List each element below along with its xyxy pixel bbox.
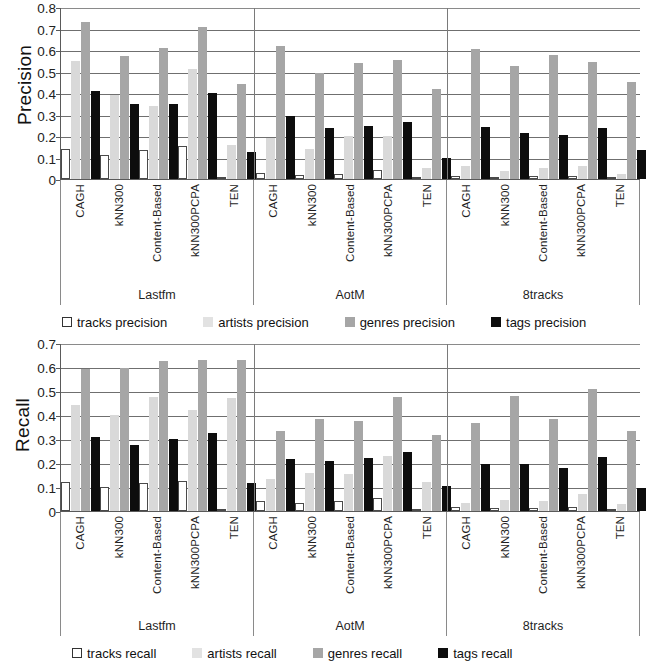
bar-tracks — [568, 176, 577, 179]
x-tick-label: kNN300 — [113, 184, 125, 226]
x-group-label: Lastfm — [61, 288, 253, 305]
precision-legend: tracks precisionartists precisiongenres … — [62, 312, 638, 332]
bar-tags — [559, 468, 568, 511]
group-separator — [447, 344, 448, 511]
x-tick-label: kNN300 — [306, 184, 318, 226]
x-group-lastfm: CAGHkNN300Content-BasedkNN300PCPATENLast… — [61, 180, 253, 305]
x-tick: kNN300 — [485, 516, 523, 558]
bar-genres — [315, 73, 324, 179]
x-tick-labels: CAGHkNN300Content-BasedkNN300PCPATEN — [254, 180, 446, 288]
legend-label: artists precision — [218, 315, 308, 330]
bar-cluster — [178, 344, 217, 511]
bar-group-8tracks — [451, 344, 646, 511]
bar-genres — [276, 46, 285, 179]
x-tick-label: CAGH — [74, 184, 86, 218]
precision-chart: Precision 0.80.70.60.50.40.30.20.10 CAGH… — [0, 0, 642, 335]
x-tick: Content-Based — [138, 184, 176, 262]
bar-artists — [617, 504, 626, 511]
bar-tags — [520, 464, 529, 511]
bar-cluster — [412, 344, 451, 511]
legend-entry-tracks[interactable]: tracks recall — [72, 646, 156, 661]
bar-genres — [432, 435, 441, 511]
x-tick-label: TEN — [228, 184, 240, 207]
bar-tracks — [295, 175, 304, 179]
legend-entry-tags[interactable]: tags precision — [491, 315, 586, 330]
x-tick: kNN300PCPA — [369, 184, 407, 257]
legend-entry-genres[interactable]: genres precision — [345, 315, 455, 330]
bar-artists — [110, 415, 119, 511]
bar-tracks — [529, 176, 538, 179]
bar-cluster — [100, 344, 139, 511]
bar-artists — [71, 405, 80, 511]
recall-x-axis-band: CAGHkNN300Content-BasedkNN300PCPATENLast… — [60, 512, 640, 636]
bar-tags — [637, 488, 646, 511]
x-tick: CAGH — [61, 516, 99, 550]
x-tick-label: CAGH — [267, 516, 279, 550]
legend-entry-tags[interactable]: tags recall — [438, 646, 512, 661]
bar-artists — [383, 136, 392, 179]
x-tick: TEN — [215, 516, 253, 539]
bar-cluster — [295, 344, 334, 511]
bar-tags — [169, 104, 178, 179]
bar-tracks — [334, 501, 343, 511]
x-tick-labels: CAGHkNN300Content-BasedkNN300PCPATEN — [254, 512, 446, 619]
legend-entry-genres[interactable]: genres recall — [313, 646, 402, 661]
x-tick: kNN300 — [485, 184, 523, 226]
bar-artists — [188, 410, 197, 511]
bar-artists — [305, 473, 314, 511]
bar-genres — [471, 49, 480, 179]
group-separator — [447, 8, 448, 179]
x-tick-label: kNN300 — [113, 516, 125, 558]
bar-genres — [276, 431, 285, 511]
x-tick-label: Content-Based — [344, 184, 356, 262]
bar-genres — [588, 389, 597, 511]
x-tick-label: Content-Based — [537, 184, 549, 262]
bar-artists — [227, 398, 236, 511]
bar-genres — [549, 55, 558, 179]
bar-group-8tracks — [451, 8, 646, 179]
bar-artists — [188, 69, 197, 179]
bar-tracks — [490, 508, 499, 511]
bar-genres — [627, 431, 636, 511]
legend-swatch-tags-icon — [491, 317, 501, 327]
x-tick-label: Content-Based — [151, 516, 163, 594]
bar-tags — [286, 116, 295, 179]
x-tick-label: CAGH — [460, 516, 472, 550]
bar-cluster — [334, 8, 373, 179]
x-tick-label: CAGH — [267, 184, 279, 218]
bar-tags — [325, 128, 334, 179]
x-tick-label: Content-Based — [151, 184, 163, 262]
bar-tags — [130, 445, 139, 511]
x-tick-label: TEN — [228, 516, 240, 539]
x-group-8tracks: CAGHkNN300Content-BasedkNN300PCPATEN8tra… — [446, 512, 639, 636]
bar-cluster — [100, 8, 139, 179]
bar-group-aotm — [256, 344, 451, 511]
bar-tags — [520, 133, 529, 179]
bar-tracks — [256, 173, 265, 179]
x-tick-labels: CAGHkNN300Content-BasedkNN300PCPATEN — [447, 512, 639, 619]
x-tick-label: TEN — [614, 516, 626, 539]
x-group-aotm: CAGHkNN300Content-BasedkNN300PCPATENAotM — [253, 512, 446, 636]
precision-x-axis-band: CAGHkNN300Content-BasedkNN300PCPATENLast… — [60, 180, 640, 305]
legend-swatch-genres-icon — [345, 317, 355, 327]
bar-cluster — [607, 344, 646, 511]
bar-tags — [598, 457, 607, 511]
recall-legend: tracks recallartists recallgenres recall… — [72, 643, 638, 663]
bar-tags — [364, 458, 373, 511]
recall-plot-area — [60, 344, 640, 512]
legend-entry-artists[interactable]: artists recall — [192, 646, 276, 661]
bar-tracks — [178, 146, 187, 179]
bar-artists — [227, 145, 236, 179]
bar-genres — [81, 369, 90, 511]
bar-genres — [393, 60, 402, 179]
x-tick: kNN300PCPA — [562, 184, 600, 257]
y-tick-label: 0.4 — [4, 87, 56, 102]
x-tick: kNN300 — [292, 516, 330, 558]
legend-entry-tracks[interactable]: tracks precision — [62, 315, 167, 330]
x-group-label: Lastfm — [61, 619, 253, 636]
legend-label: tracks precision — [77, 315, 167, 330]
legend-entry-artists[interactable]: artists precision — [203, 315, 308, 330]
x-tick: TEN — [601, 516, 639, 539]
x-tick: Content-Based — [524, 516, 562, 594]
bar-tracks — [334, 174, 343, 179]
